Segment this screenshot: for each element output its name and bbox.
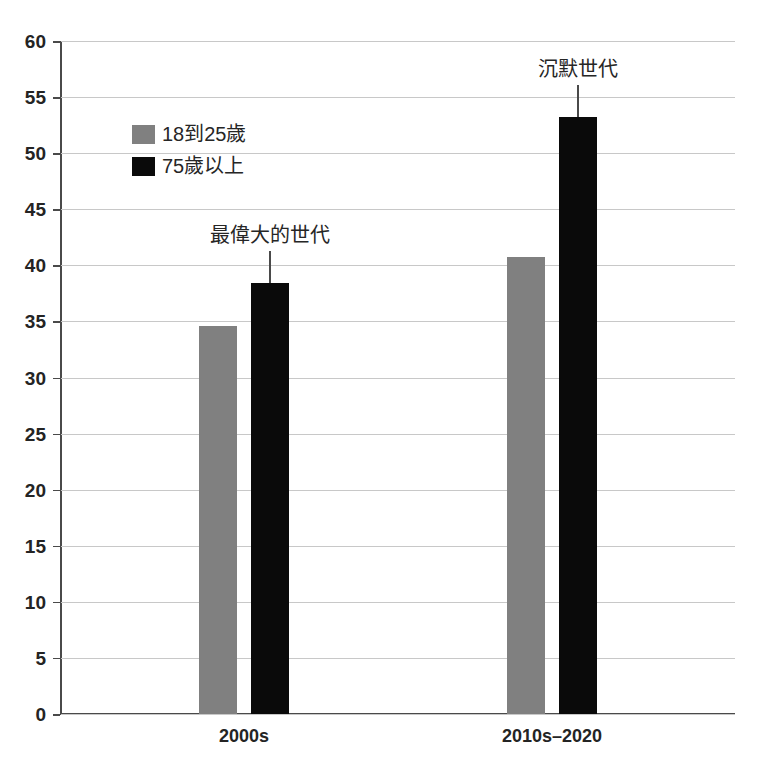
y-tick-mark — [53, 714, 60, 716]
legend-swatch-icon — [132, 157, 155, 176]
gridline — [61, 378, 735, 379]
y-tick-label: 5 — [0, 648, 46, 667]
y-tick-label: 0 — [0, 705, 46, 724]
y-tick-label: 50 — [0, 144, 46, 163]
gridline — [61, 714, 735, 715]
gridline — [61, 546, 735, 547]
y-tick-label: 55 — [0, 88, 46, 107]
legend-item[interactable]: 18到25歲 — [132, 118, 247, 150]
y-tick-label: 30 — [0, 368, 46, 387]
gridline — [61, 490, 735, 491]
y-tick-mark — [53, 602, 60, 604]
annotation: 最偉大的世代 — [210, 225, 330, 245]
legend-label: 18到25歲 — [162, 124, 247, 144]
gridline — [61, 97, 735, 98]
y-tick-label: 40 — [0, 256, 46, 275]
y-tick-label: 20 — [0, 480, 46, 499]
annotation-label: 沉默世代 — [538, 59, 618, 79]
bar — [199, 326, 237, 714]
y-tick-mark — [53, 209, 60, 211]
y-tick-label: 10 — [0, 592, 46, 611]
y-tick-label: 15 — [0, 536, 46, 555]
y-tick-mark — [53, 546, 60, 548]
gridline — [61, 602, 735, 603]
y-tick-mark — [53, 490, 60, 492]
y-tick-label: 45 — [0, 200, 46, 219]
legend: 18到25歲75歲以上 — [132, 118, 247, 182]
annotation-label: 最偉大的世代 — [210, 225, 330, 245]
y-tick-mark — [53, 153, 60, 155]
x-tick-label: 2000s — [219, 726, 269, 747]
annotation-leader-line — [269, 251, 271, 283]
gridline — [61, 265, 735, 266]
gridline — [61, 209, 735, 210]
legend-label: 75歲以上 — [162, 156, 244, 176]
y-tick-mark — [53, 97, 60, 99]
gridline — [61, 434, 735, 435]
bar — [507, 257, 545, 714]
y-tick-label: 35 — [0, 312, 46, 331]
bar-chart: 605550454035302520151050 2000s2010s–2020… — [0, 0, 758, 769]
y-tick-mark — [53, 41, 60, 43]
bar — [251, 283, 289, 714]
y-tick-mark — [53, 265, 60, 267]
y-tick-label: 60 — [0, 32, 46, 51]
gridline — [61, 321, 735, 322]
annotation: 沉默世代 — [538, 59, 618, 79]
y-tick-mark — [53, 321, 60, 323]
bar — [559, 117, 597, 714]
gridline — [61, 658, 735, 659]
y-tick-mark — [53, 434, 60, 436]
legend-swatch-icon — [132, 125, 155, 144]
y-tick-label: 25 — [0, 424, 46, 443]
y-tick-mark — [53, 378, 60, 380]
x-tick-label: 2010s–2020 — [502, 726, 602, 747]
legend-item[interactable]: 75歲以上 — [132, 150, 247, 182]
y-tick-mark — [53, 658, 60, 660]
annotation-leader-line — [577, 85, 579, 117]
gridline — [61, 41, 735, 42]
